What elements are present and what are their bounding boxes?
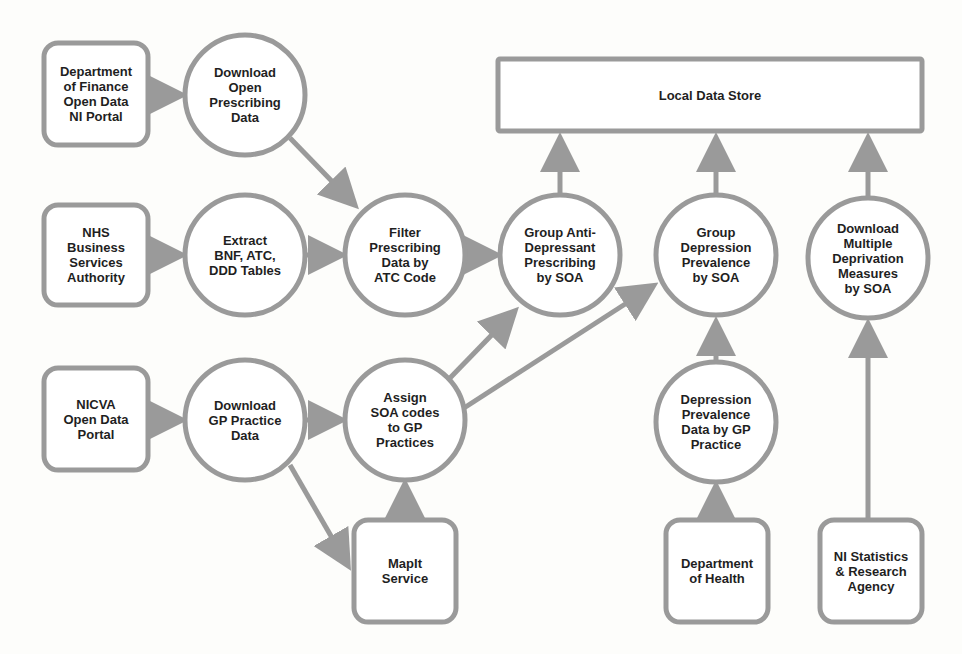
node-local-store: Local Data Store: [498, 59, 922, 131]
node-dept-health: Department of Health: [666, 520, 768, 622]
node-assign-soa: Assign SOA codes to GP Practices: [345, 360, 465, 480]
node-mapit: MapIt Service: [354, 520, 456, 622]
node-group-antidep: Group Anti- Depressant Prescribing by SO…: [500, 195, 620, 315]
node-depression-data-gp: Depression Prevalence Data by GP Practic…: [656, 362, 776, 482]
node-download-gp: Download GP Practice Data: [185, 360, 305, 480]
node-extract-tables: Extract BNF, ATC, DDD Tables: [185, 195, 305, 315]
node-nhs-bsa: NHS Business Services Authority: [44, 205, 148, 305]
node-nisra: NI Statistics & Research Agency: [820, 520, 922, 622]
node-group-depression: Group Depression Prevalence by SOA: [656, 195, 776, 315]
node-download-prescribing: Download Open Prescribing Data: [185, 35, 305, 155]
node-filter-atc: Filter Prescribing Data by ATC Code: [345, 195, 465, 315]
node-dof-portal: Department of Finance Open Data NI Porta…: [44, 43, 148, 145]
node-download-deprivation: Download Multiple Deprivation Measures b…: [808, 198, 928, 318]
node-nicva-portal: NICVA Open Data Portal: [44, 368, 148, 470]
edges: [150, 95, 868, 562]
